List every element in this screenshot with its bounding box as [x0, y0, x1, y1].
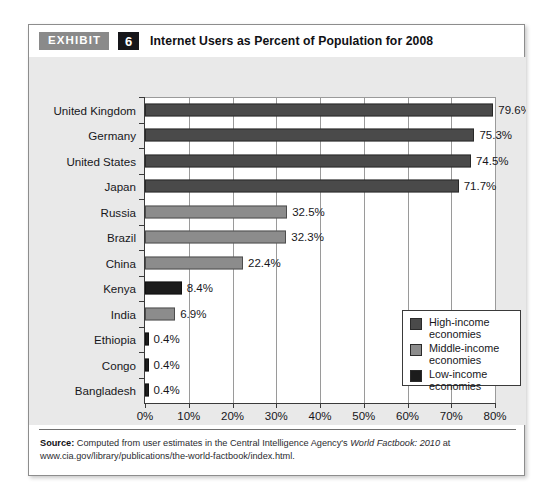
source-text-before: Computed from user estimates in the Cent… — [74, 438, 350, 448]
exhibit-tag: EXHIBIT — [39, 32, 109, 50]
bar-row: China22.4% — [145, 250, 495, 276]
bar-row: Russia32.5% — [145, 199, 495, 225]
x-tick-label: 70% — [440, 410, 463, 422]
x-tick — [233, 403, 234, 408]
y-tick — [139, 276, 145, 277]
x-tick-label: 60% — [396, 410, 419, 422]
bar-russia — [145, 205, 287, 218]
category-label-united-states: United States — [66, 154, 136, 167]
exhibit-number-badge: 6 — [118, 32, 139, 50]
y-tick — [139, 174, 145, 175]
category-label-ethiopia: Ethiopia — [94, 333, 136, 346]
category-label-kenya: Kenya — [103, 282, 136, 295]
x-tick — [495, 403, 496, 408]
bar-value-label: 79.6% — [493, 104, 526, 116]
category-label-japan: Japan — [104, 180, 136, 193]
bar-value-label: 75.3% — [474, 129, 512, 141]
legend-item-low: Low-incomeeconomies — [410, 369, 520, 392]
bar-value-label: 6.9% — [175, 308, 206, 320]
legend-label-line2: economies — [429, 329, 490, 341]
exhibit-title: Internet Users as Percent of Population … — [150, 34, 433, 48]
legend-label-line1: High-income — [429, 317, 490, 329]
category-label-congo: Congo — [102, 358, 136, 371]
category-label-china: China — [106, 256, 136, 269]
legend-swatch-middle — [410, 344, 422, 356]
chart-legend: High-incomeeconomiesMiddle-incomeeconomi… — [402, 310, 521, 386]
chart-panel: United Kingdom79.6%Germany75.3%United St… — [29, 57, 526, 425]
legend-item-high: High-incomeeconomies — [410, 317, 520, 340]
x-tick — [364, 403, 365, 408]
category-label-india: India — [111, 307, 136, 320]
legend-label-middle: Middle-incomeeconomies — [429, 343, 499, 366]
y-tick — [139, 97, 145, 98]
x-tick-label: 10% — [177, 410, 200, 422]
bar-value-label: 71.7% — [459, 180, 497, 192]
source-note: Source: Computed from user estimates in … — [40, 437, 516, 462]
bar-value-label: 22.4% — [243, 257, 281, 269]
legend-label-high: High-incomeeconomies — [429, 317, 490, 340]
bar-value-label: 74.5% — [471, 155, 509, 167]
x-tick — [408, 403, 409, 408]
y-tick — [139, 378, 145, 379]
category-label-russia: Russia — [101, 205, 136, 218]
y-tick — [139, 148, 145, 149]
source-divider — [39, 429, 516, 430]
y-tick — [139, 199, 145, 200]
bar-germany — [145, 129, 474, 142]
legend-label-line2: economies — [429, 355, 499, 367]
bar-row: Japan71.7% — [145, 174, 495, 200]
bar-brazil — [145, 231, 286, 244]
exhibit-card: EXHIBIT 6 Internet Users as Percent of P… — [28, 24, 525, 476]
bar-china — [145, 256, 243, 269]
bar-united-kingdom — [145, 103, 493, 116]
bar-row: Germany75.3% — [145, 123, 495, 149]
y-tick — [139, 301, 145, 302]
bar-row: Kenya8.4% — [145, 276, 495, 302]
legend-swatch-high — [410, 318, 422, 330]
bar-row: Brazil32.3% — [145, 225, 495, 251]
legend-label-low: Low-incomeeconomies — [429, 369, 487, 392]
bar-value-label: 32.3% — [286, 231, 324, 243]
y-tick — [139, 352, 145, 353]
x-tick-label: 20% — [221, 410, 244, 422]
bar-india — [145, 307, 175, 320]
bar-value-label: 0.4% — [149, 333, 180, 345]
bar-row: United Kingdom79.6% — [145, 97, 495, 123]
legend-item-middle: Middle-incomeeconomies — [410, 343, 520, 366]
y-tick — [139, 123, 145, 124]
bar-united-states — [145, 154, 471, 167]
source-label: Source: — [40, 438, 74, 448]
x-tick-label: 50% — [352, 410, 375, 422]
category-label-united-kingdom: United Kingdom — [54, 103, 137, 116]
exhibit-header: EXHIBIT 6 Internet Users as Percent of P… — [29, 25, 524, 57]
y-tick — [139, 225, 145, 226]
y-tick — [139, 327, 145, 328]
category-label-bangladesh: Bangladesh — [75, 384, 136, 397]
legend-label-line2: economies — [429, 381, 487, 393]
bar-value-label: 0.4% — [149, 384, 180, 396]
bar-value-label: 8.4% — [182, 282, 213, 294]
legend-swatch-low — [410, 370, 422, 382]
bar-row: United States74.5% — [145, 148, 495, 174]
category-label-brazil: Brazil — [107, 231, 136, 244]
x-tick-label: 80% — [483, 410, 506, 422]
x-tick — [145, 403, 146, 408]
x-tick-label: 30% — [265, 410, 288, 422]
bar-kenya — [145, 282, 182, 295]
y-tick — [139, 250, 145, 251]
x-tick — [451, 403, 452, 408]
bar-japan — [145, 180, 459, 193]
source-italic-title: World Factbook: 2010 — [350, 438, 440, 448]
x-tick-label: 0% — [137, 410, 154, 422]
x-tick-label: 40% — [308, 410, 331, 422]
x-tick — [320, 403, 321, 408]
legend-label-line1: Low-income — [429, 369, 487, 381]
bar-value-label: 0.4% — [149, 359, 180, 371]
x-tick — [276, 403, 277, 408]
bar-value-label: 32.5% — [287, 206, 325, 218]
legend-label-line1: Middle-income — [429, 343, 499, 355]
x-tick — [189, 403, 190, 408]
category-label-germany: Germany — [88, 129, 136, 142]
